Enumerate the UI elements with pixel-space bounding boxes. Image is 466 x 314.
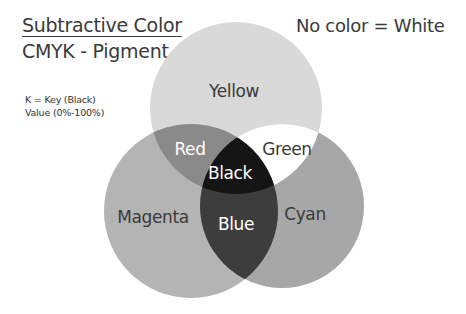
label-green: Green: [262, 139, 311, 159]
cmyk-venn-diagram: Yellow Red Green Black Magenta Blue Cyan: [0, 0, 466, 314]
label-yellow: Yellow: [208, 81, 259, 101]
label-cyan: Cyan: [284, 204, 326, 224]
label-red: Red: [174, 139, 205, 159]
label-blue: Blue: [218, 214, 254, 234]
label-magenta: Magenta: [117, 207, 188, 227]
label-black: Black: [208, 163, 253, 183]
